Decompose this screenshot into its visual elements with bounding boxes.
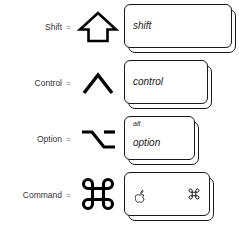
key-row-control: Control = control xyxy=(0,56,239,112)
modifier-key-chart: Shift = shift Control = xyxy=(0,0,239,225)
keycap-command[interactable] xyxy=(124,172,214,221)
key-row-command: Command = xyxy=(0,168,239,224)
keycap-top-command xyxy=(124,172,210,216)
keycap-legend-option: option xyxy=(133,137,160,148)
keycap-top-control: control xyxy=(124,60,208,104)
equals-sign-command: = xyxy=(66,190,71,200)
key-row-shift: Shift = shift xyxy=(0,0,239,56)
equals-sign-control: = xyxy=(66,78,71,88)
row-label-control: Control xyxy=(0,78,62,88)
keycap-shift[interactable]: shift xyxy=(124,4,236,53)
equals-sign-option: = xyxy=(66,134,71,144)
keycap-legend-control: control xyxy=(133,76,163,87)
row-label-option: Option xyxy=(0,134,62,144)
keycap-control[interactable]: control xyxy=(124,60,212,109)
keycap-top-option: alt option xyxy=(124,116,195,160)
command-glyph-icon xyxy=(188,188,200,202)
keycap-legend-alt: alt xyxy=(133,120,140,127)
keycap-legend-shift: shift xyxy=(133,20,151,31)
apple-logo-icon xyxy=(135,189,146,207)
row-label-shift: Shift xyxy=(0,22,62,32)
row-label-command: Command xyxy=(0,190,62,200)
equals-sign-shift: = xyxy=(66,22,71,32)
control-caret-symbol xyxy=(76,70,120,96)
keycap-top-shift: shift xyxy=(124,4,232,48)
option-alt-symbol xyxy=(76,126,120,152)
keycap-option[interactable]: alt option xyxy=(124,116,199,165)
key-row-option: Option = alt option xyxy=(0,112,239,168)
command-cloverleaf-symbol xyxy=(76,176,120,212)
shift-arrow-symbol xyxy=(76,10,120,44)
